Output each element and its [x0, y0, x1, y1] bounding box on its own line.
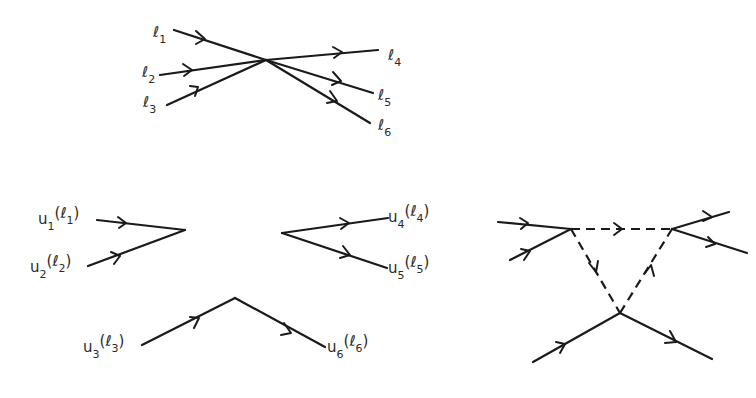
label-u2: u2(ℓ2) — [30, 252, 71, 281]
label-l5: ℓ5 — [377, 86, 391, 109]
arrow-icon — [333, 47, 342, 58]
line-u4 — [282, 218, 388, 233]
line-l1 — [174, 30, 266, 60]
diagram-canvas: ℓ1 ℓ2 ℓ3 ℓ4 ℓ5 ℓ6 u1(ℓ1) u2(ℓ2) u3(ℓ3) u… — [0, 0, 756, 398]
line-l5 — [266, 60, 373, 93]
line-u6 — [235, 298, 325, 347]
line-u5 — [282, 233, 387, 268]
label-u5: u5(ℓ5) — [388, 253, 429, 282]
external-line — [533, 313, 620, 362]
external-line — [498, 222, 571, 229]
split-diagram: u1(ℓ1) u2(ℓ2) u3(ℓ3) u4(ℓ4) u5(ℓ5) u6(ℓ6… — [30, 202, 429, 361]
label-u6: u6(ℓ6) — [327, 332, 368, 361]
label-u4: u4(ℓ4) — [388, 202, 429, 231]
label-l2: ℓ2 — [141, 63, 155, 86]
line-l6 — [266, 60, 370, 123]
external-line — [672, 229, 747, 253]
arrow-icon — [703, 211, 712, 221]
arrow-icon — [645, 265, 654, 276]
label-u3: u3(ℓ3) — [83, 332, 124, 361]
label-u1: u1(ℓ1) — [38, 204, 79, 233]
external-line — [510, 229, 571, 260]
six-line-vertex: ℓ1 ℓ2 ℓ3 ℓ4 ℓ5 ℓ6 — [141, 23, 401, 139]
label-l4: ℓ4 — [387, 46, 401, 69]
label-l6: ℓ6 — [377, 116, 391, 139]
line-l4 — [266, 50, 378, 60]
loop-diagram — [498, 211, 747, 362]
line-u2 — [88, 230, 185, 266]
line-u3 — [142, 298, 235, 345]
label-l3: ℓ3 — [142, 93, 156, 116]
external-line — [620, 313, 712, 359]
external-line — [672, 212, 729, 229]
label-l1: ℓ1 — [152, 23, 166, 46]
line-u1 — [97, 220, 185, 230]
